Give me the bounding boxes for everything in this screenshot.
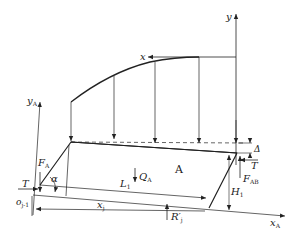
load-curve: [71, 57, 199, 102]
l1-label: L1: [119, 178, 130, 190]
alpha-label: α: [51, 173, 58, 184]
fab-label: FAB: [242, 173, 259, 185]
oj1-label: oj-1: [16, 197, 29, 209]
ya-axis-label: yA: [26, 95, 38, 107]
h1-label: H1: [230, 186, 244, 198]
delta-label: Δ: [253, 144, 261, 154]
rj-label: R′j: [170, 211, 183, 224]
xa-axis: [33, 195, 285, 216]
fa-label: FA: [37, 157, 50, 169]
y-axis-label: y: [225, 11, 232, 22]
x-axis-label: x: [140, 51, 146, 62]
t-left-label: T: [22, 178, 30, 189]
qa-label: QA: [139, 171, 152, 183]
body-a-inner-line: [66, 145, 69, 196]
body-a-top-edge: [71, 142, 237, 153]
diagram-canvas: y x yA xA FA α T oj-1 L1 QA A xj R′j Δ T…: [0, 0, 303, 241]
dashed-reference-line: [71, 142, 246, 143]
xa-axis-label: xA: [270, 217, 281, 229]
t-right-label: T: [251, 160, 259, 171]
body-a-label: A: [174, 163, 184, 176]
